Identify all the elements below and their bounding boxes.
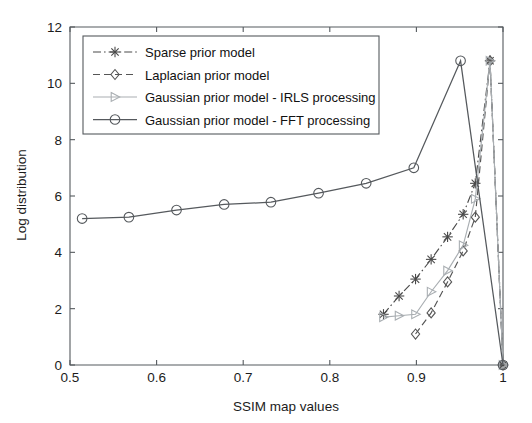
y-tick-label: 10	[47, 76, 62, 91]
data-point-asterisk	[110, 47, 120, 57]
chart-legend: Sparse prior modelLaplacian prior modelG…	[83, 36, 379, 134]
x-tick-label: 1	[499, 370, 507, 385]
ssim-log-distribution-chart: 0.50.60.70.80.91024681012 Sparse prior m…	[0, 0, 532, 423]
y-tick-label: 0	[54, 358, 62, 373]
x-tick-label: 0.5	[61, 370, 80, 385]
legend-label-1: Laplacian prior model	[145, 68, 269, 83]
y-tick-label: 6	[54, 189, 62, 204]
x-tick-label: 0.6	[147, 370, 166, 385]
legend-label-0: Sparse prior model	[145, 45, 255, 60]
chart-figure: 0.50.60.70.80.91024681012 Sparse prior m…	[0, 0, 532, 423]
y-tick-label: 12	[47, 20, 62, 35]
data-point-asterisk	[442, 232, 452, 242]
x-tick-label: 0.7	[234, 370, 253, 385]
legend-label-3: Gaussian prior model - FFT processing	[145, 113, 370, 128]
x-tick-label: 0.8	[320, 370, 339, 385]
legend-label-2: Gaussian prior model - IRLS processing	[145, 90, 376, 105]
y-tick-label: 4	[54, 245, 62, 260]
data-point-asterisk	[394, 291, 404, 301]
y-tick-label: 8	[54, 133, 62, 148]
y-axis-title: Log distribution	[14, 149, 29, 241]
x-tick-label: 0.9	[407, 370, 426, 385]
y-tick-label: 2	[54, 302, 62, 317]
data-point-asterisk	[410, 274, 420, 284]
data-point-asterisk	[458, 209, 468, 219]
data-point-asterisk	[426, 254, 436, 264]
x-axis-title: SSIM map values	[233, 399, 339, 414]
